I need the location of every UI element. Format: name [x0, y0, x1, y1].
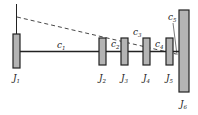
mode-shape-dashed-line — [17, 17, 176, 54]
label-c4: c4 — [155, 39, 164, 50]
c5-leader-line — [173, 23, 177, 55]
torsional-system-diagram: c1 c2 c3 c4 c5 J1 J2 J3 J4 J5 J6 — [0, 0, 198, 115]
inertia-j4 — [143, 38, 150, 65]
label-c2: c2 — [111, 39, 120, 50]
inertia-j1 — [13, 34, 20, 68]
label-c5: c5 — [168, 12, 177, 23]
label-j4: J4 — [141, 73, 151, 84]
label-j1: J1 — [11, 73, 20, 84]
label-j2: J2 — [97, 73, 107, 84]
inertia-j3 — [121, 38, 128, 65]
label-j3: J3 — [119, 73, 129, 84]
label-j6: J6 — [178, 99, 188, 110]
label-c3: c3 — [133, 27, 142, 38]
inertia-j2 — [99, 38, 106, 65]
inertia-j6 — [179, 10, 189, 92]
inertia-j5 — [166, 38, 173, 65]
label-j5: J5 — [164, 73, 174, 84]
label-c1: c1 — [57, 40, 66, 51]
